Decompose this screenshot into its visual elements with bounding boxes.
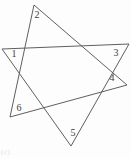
- vertex-label-3: 3: [114, 47, 119, 58]
- triangle-2-4-6: [10, 5, 127, 117]
- triangle-1-3-5: [2, 44, 129, 146]
- vertex-label-4: 4: [110, 72, 115, 83]
- vertex-label-6: 6: [17, 102, 22, 113]
- vertex-label-2: 2: [35, 9, 40, 20]
- star-polygon-figure: 123456: [0, 0, 131, 159]
- scanned-figure-page: 123456 (c): [0, 0, 131, 159]
- scan-artifact-text: (c): [1, 149, 10, 156]
- vertex-label-1: 1: [12, 48, 17, 59]
- vertex-label-5: 5: [71, 127, 76, 138]
